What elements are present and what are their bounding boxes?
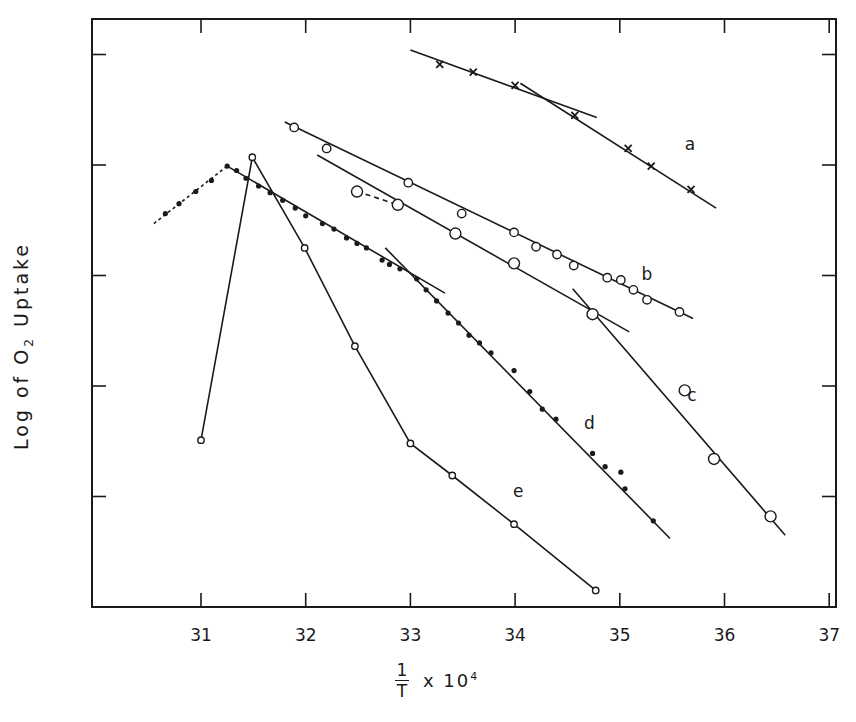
- filled-dot-marker-icon: [234, 168, 239, 173]
- x-tick-label: 31: [190, 625, 212, 645]
- filled-dot-marker-icon: [397, 266, 402, 271]
- series-a-fit-line: [410, 50, 596, 117]
- x-axis-denominator: T: [395, 681, 409, 701]
- y-axis-label-prefix: Log of O: [10, 347, 32, 450]
- fit-lines: [154, 50, 785, 590]
- open-circle-marker-icon: [532, 243, 540, 251]
- open-circle-marker-icon: [553, 250, 561, 258]
- cross-marker-icon: [625, 145, 632, 152]
- filled-dot-marker-icon: [540, 407, 545, 412]
- filled-dot-marker-icon: [344, 235, 349, 240]
- cross-marker-icon: [436, 61, 443, 68]
- plot-frame: [92, 19, 836, 607]
- filled-dot-marker-icon: [488, 350, 493, 355]
- x-tick-label: 32: [295, 625, 317, 645]
- x-tick-label: 35: [609, 625, 631, 645]
- filled-dot-marker-icon: [303, 213, 308, 218]
- filled-dot-marker-icon: [424, 287, 429, 292]
- x-tick-label: 37: [818, 625, 840, 645]
- filled-dot-marker-icon: [176, 201, 181, 206]
- filled-dot-marker-icon: [268, 190, 273, 195]
- x-axis-multiplier: x 104: [423, 670, 479, 691]
- open-circle-marker-icon: [301, 245, 307, 251]
- y-axis-label-subscript: 2: [22, 336, 36, 347]
- open-circle-marker-icon: [643, 296, 651, 304]
- open-circle-marker-icon: [392, 199, 403, 210]
- filled-dot-marker-icon: [293, 205, 298, 210]
- series-c-fit-line: [317, 155, 629, 332]
- series-label-e: e: [513, 481, 523, 501]
- open-circle-marker-icon: [290, 123, 298, 131]
- series-label-c: c: [687, 385, 696, 405]
- open-circle-marker-icon: [404, 178, 412, 186]
- open-circle-marker-icon: [587, 309, 598, 320]
- filled-dot-marker-icon: [434, 298, 439, 303]
- filled-dot-marker-icon: [163, 211, 168, 216]
- x-axis-exponent: 4: [470, 670, 479, 683]
- filled-dot-marker-icon: [320, 221, 325, 226]
- open-circle-marker-icon: [450, 228, 461, 239]
- open-circle-marker-icon: [603, 274, 611, 282]
- series-c-fit-line: [573, 289, 786, 535]
- filled-dot-marker-icon: [590, 451, 595, 456]
- filled-dot-marker-icon: [553, 417, 558, 422]
- filled-dot-marker-icon: [225, 164, 230, 169]
- filled-dot-marker-icon: [445, 310, 450, 315]
- axis-ticks: [92, 19, 836, 607]
- open-circle-marker-icon: [322, 144, 330, 152]
- x-axis-numerator: 1: [395, 660, 409, 680]
- open-circle-marker-icon: [709, 453, 720, 464]
- filled-dot-marker-icon: [466, 333, 471, 338]
- open-circle-marker-icon: [509, 258, 520, 269]
- filled-dot-marker-icon: [651, 518, 656, 523]
- filled-dot-marker-icon: [243, 176, 248, 181]
- open-circle-marker-icon: [449, 472, 455, 478]
- open-circle-marker-icon: [198, 437, 204, 443]
- filled-dot-marker-icon: [387, 262, 392, 267]
- filled-dot-marker-icon: [364, 245, 369, 250]
- x-tick-label: 36: [714, 625, 736, 645]
- filled-dot-marker-icon: [331, 226, 336, 231]
- x-tick-label: 34: [504, 625, 526, 645]
- filled-dot-marker-icon: [380, 257, 385, 262]
- x-tick-label: 33: [400, 625, 422, 645]
- filled-dot-marker-icon: [477, 340, 482, 345]
- open-circle-marker-icon: [249, 154, 255, 160]
- chart-plot-area: 31323334353637 abcde: [0, 0, 856, 722]
- open-circle-marker-icon: [458, 209, 466, 217]
- series-labels: abcde: [513, 134, 697, 501]
- open-circle-marker-icon: [617, 276, 625, 284]
- x-axis-suffix: x 10: [423, 670, 470, 691]
- y-axis-label-suffix: Uptake: [10, 242, 32, 336]
- series-label-a: a: [685, 134, 695, 154]
- x-tick-labels: 31323334353637: [190, 625, 840, 645]
- open-circle-marker-icon: [629, 286, 637, 294]
- x-axis-label: 1 T x 104: [395, 660, 479, 701]
- open-circle-marker-icon: [352, 343, 358, 349]
- filled-dot-marker-icon: [511, 368, 516, 373]
- open-circle-marker-icon: [407, 440, 413, 446]
- open-circle-marker-icon: [511, 521, 517, 527]
- series-e-line: [201, 157, 596, 590]
- open-circle-marker-icon: [352, 186, 363, 197]
- filled-dot-marker-icon: [622, 486, 627, 491]
- filled-dot-marker-icon: [193, 189, 198, 194]
- open-circle-marker-icon: [765, 511, 776, 522]
- open-circle-marker-icon: [675, 308, 683, 316]
- series-label-d: d: [584, 413, 595, 433]
- filled-dot-marker-icon: [603, 464, 608, 469]
- filled-dot-marker-icon: [354, 241, 359, 246]
- filled-dot-marker-icon: [527, 389, 532, 394]
- filled-dot-marker-icon: [209, 178, 214, 183]
- filled-dot-marker-icon: [414, 276, 419, 281]
- filled-dot-marker-icon: [256, 183, 261, 188]
- filled-dot-marker-icon: [456, 320, 461, 325]
- open-circle-marker-icon: [570, 261, 578, 269]
- y-axis-label: Log of O2 Uptake: [10, 242, 36, 450]
- cross-marker-icon: [648, 163, 655, 170]
- filled-dot-marker-icon: [618, 470, 623, 475]
- filled-dot-marker-icon: [280, 198, 285, 203]
- open-circle-marker-icon: [593, 587, 599, 593]
- series-label-b: b: [642, 264, 653, 284]
- x-axis-fraction: 1 T: [395, 660, 409, 701]
